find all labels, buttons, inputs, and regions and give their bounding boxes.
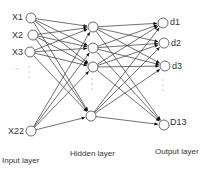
output-node-label-d1: d1 <box>170 18 180 27</box>
arrowhead-icon <box>153 22 157 25</box>
output-node-label-d13: D13 <box>170 118 187 127</box>
hidden-ellipsis-icon <box>91 78 92 79</box>
input-node-label-x3: X3 <box>12 48 23 57</box>
hidden-node <box>86 111 96 121</box>
input-hidden-edge <box>36 19 87 26</box>
output-ellipsis-icon <box>162 89 163 90</box>
hidden-output-edge <box>97 70 159 121</box>
hidden-ellipsis-icon <box>91 83 92 84</box>
input-hidden-edge <box>34 22 88 111</box>
hidden-output-edge <box>98 43 158 47</box>
arrowhead-icon <box>154 39 158 42</box>
input-node-label-x2: X2 <box>12 31 23 40</box>
output-ellipsis-icon <box>162 79 163 80</box>
input-hidden-edge <box>36 117 85 129</box>
input-node <box>25 47 35 57</box>
hidden-node <box>88 22 98 32</box>
hidden-node <box>88 62 98 72</box>
hidden-output-edge <box>98 66 159 67</box>
input-layer-title: Input layer <box>2 157 39 165</box>
input-hidden-edge <box>34 53 89 127</box>
hidden-output-edge <box>94 28 159 112</box>
input-hidden-edge <box>36 20 88 45</box>
arrowhead-icon <box>155 65 159 68</box>
arrowhead-icon <box>86 53 89 57</box>
output-node-label-d2: d2 <box>171 39 181 48</box>
hidden-output-edge <box>95 47 160 112</box>
arrowhead-icon <box>81 117 85 120</box>
arrowhead-icon <box>83 24 87 27</box>
input-node <box>26 126 36 136</box>
input-node-label-x1: X1 <box>12 13 23 22</box>
hidden-output-edge <box>98 25 158 46</box>
output-layer-title: Output layer <box>155 148 199 156</box>
input-node <box>26 13 36 23</box>
input-node <box>28 30 38 40</box>
hidden-output-edge <box>96 117 158 125</box>
arrowhead-icon <box>83 47 87 50</box>
output-node <box>160 61 170 71</box>
output-node-label-d3: d3 <box>172 62 182 71</box>
output-node <box>159 38 169 48</box>
hidden-ellipsis-icon <box>91 88 92 89</box>
arrowhead-icon <box>154 45 158 48</box>
arrowhead-icon <box>156 69 160 72</box>
input-node-label-x22: X22 <box>8 127 24 136</box>
input-hidden-edge <box>33 56 86 112</box>
output-node <box>158 18 168 28</box>
hidden-layer-title: Hidden layer <box>70 150 115 158</box>
hidden-node <box>88 43 98 53</box>
input-ellipsis-icon <box>28 66 29 67</box>
input-ellipsis-icon <box>28 76 29 77</box>
output-node <box>159 120 169 130</box>
arrowhead-icon <box>154 122 158 125</box>
output-ellipsis-icon <box>162 84 163 85</box>
hidden-output-edge <box>98 23 157 26</box>
input-hidden-edge <box>34 32 90 127</box>
input-ellipsis-icon <box>28 71 29 72</box>
